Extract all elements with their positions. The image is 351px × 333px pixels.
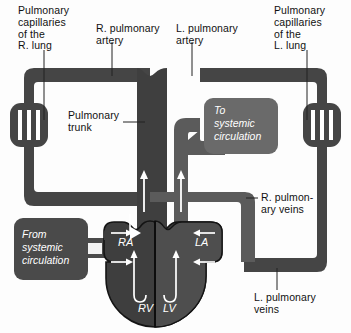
from-systemic-line-1: From <box>22 228 47 240</box>
label-l-pulmonary-veins: L. pulmonary veins <box>254 292 316 316</box>
label-l-pulmonary-artery: L. pulmonary artery <box>176 23 238 47</box>
label-pulmonary-trunk: Pulmonary trunk <box>68 110 119 134</box>
capillary-stripe <box>320 110 324 140</box>
capillary-stripe <box>36 110 40 140</box>
left-ventricle-label: LV <box>163 302 178 314</box>
left-atrium-label: LA <box>195 236 208 248</box>
label-r-pulmonary-veins: R. pulmon- ary veins <box>261 192 313 216</box>
r-pulmonary-artery-vessel <box>24 68 150 110</box>
capillary-stripe <box>329 110 333 140</box>
capillary-stripe <box>311 110 315 140</box>
label-pulmonary-capillaries-left: Pulmonary capillaries of the L. lung <box>274 5 325 52</box>
vena-cava-gap <box>88 243 102 254</box>
label-r-pulmonary-artery: R. pulmonary artery <box>96 23 160 47</box>
capillary-stripe <box>18 110 22 140</box>
from-systemic-line-3: circulation <box>22 254 69 266</box>
to-systemic-line-3: circulation <box>214 130 261 142</box>
capillary-stripe <box>27 110 31 140</box>
to-systemic-line-2: systemic <box>214 117 256 129</box>
right-atrium-label: RA <box>118 236 133 248</box>
label-pulmonary-capillaries-right: Pulmonary capillaries of the R. lung <box>18 5 69 52</box>
pulmonary-trunk-vessel <box>137 68 167 230</box>
right-ventricle-label: RV <box>138 302 155 314</box>
heart: RA LA RV LV <box>104 214 222 327</box>
pulmonary-circulation-figure: RA LA RV LV To systemic circulation <box>0 0 351 333</box>
from-systemic-line-2: systemic <box>22 241 64 253</box>
to-systemic-line-1: To <box>214 104 225 116</box>
